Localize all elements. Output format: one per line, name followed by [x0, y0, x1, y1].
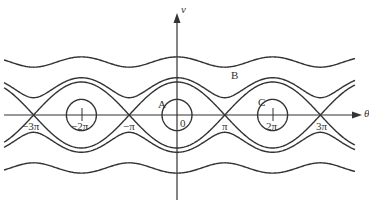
- tick-label-neg2pi: −2π: [71, 121, 88, 132]
- origin-label: 0: [180, 118, 186, 129]
- tick-label-pi: π: [222, 121, 228, 132]
- tick-label-negpi: −π: [123, 121, 135, 132]
- region-label-b: B: [231, 70, 238, 81]
- region-label-c: C: [258, 97, 265, 108]
- rotation-near-lower: [4, 132, 355, 152]
- rotation-far-upper: [4, 57, 355, 67]
- rotation-far-lower: [4, 163, 355, 173]
- tick-label-2pi: 2π: [266, 121, 277, 132]
- rotation-near-upper: [4, 78, 355, 98]
- tick-label-neg3pi: −3π: [22, 121, 39, 132]
- tick-label-3pi: 3π: [316, 121, 327, 132]
- v-axis-arrow-icon: [174, 13, 181, 23]
- region-label-a: A: [158, 99, 166, 110]
- theta-axis-arrow-icon: [352, 112, 362, 119]
- phase-portrait-diagram: [0, 0, 369, 202]
- theta-axis-label: θ: [364, 108, 369, 119]
- v-axis-label: v: [181, 4, 186, 15]
